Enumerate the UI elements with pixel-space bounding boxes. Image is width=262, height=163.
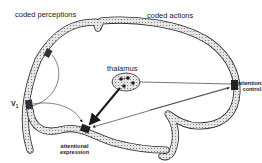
coded-actions-label: coded actions <box>147 12 193 20</box>
attentional-expression-line2: expression <box>60 149 89 155</box>
brain-diagram <box>0 0 262 163</box>
coded-perceptions-label: coded perceptions <box>15 11 76 19</box>
v1-patch <box>25 100 33 110</box>
thalamus-label: thalamus <box>107 65 137 73</box>
attentional-control-line2: control <box>238 86 262 92</box>
temporal-band <box>30 110 166 150</box>
thalamus-to-expression-arrow <box>90 88 120 124</box>
attentional-control-patch <box>231 80 238 90</box>
attentional-expression-label: attentional expression <box>60 143 89 155</box>
expression-to-control-arrow <box>150 88 229 110</box>
v1-to-expression-curve <box>33 103 82 122</box>
thalamus-node <box>112 73 140 91</box>
thalamus-to-control-line <box>140 82 231 84</box>
v1-label-subscript: 1 <box>16 104 19 109</box>
attentional-control-label: attentional control <box>238 80 262 92</box>
v1-label: V1 <box>11 100 18 110</box>
